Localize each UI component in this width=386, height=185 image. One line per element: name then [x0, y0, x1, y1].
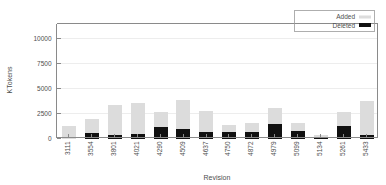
y-tick-label: 2500: [37, 110, 52, 117]
x-tick-label: 3801: [110, 141, 117, 156]
x-tick-label: 4979: [270, 141, 277, 156]
bar-segment-added: [199, 111, 213, 132]
x-tick-label: 5261: [339, 141, 346, 156]
bar-segment-added: [176, 100, 190, 129]
gridlines: [57, 39, 378, 114]
x-tick-label: 4637: [202, 141, 209, 156]
bar-segment-added: [291, 123, 305, 131]
bar-segment-added: [154, 112, 168, 127]
x-axis-title: Revision: [204, 174, 231, 181]
x-tick-label: 5099: [293, 141, 300, 156]
x-tick-label: 4021: [133, 141, 140, 156]
x-tick-label: 3111: [64, 141, 71, 155]
x-tick-label: 5134: [316, 141, 323, 156]
bar-segment-added: [222, 125, 236, 132]
y-tick-label: 10000: [33, 35, 51, 42]
bar-segment-added: [131, 103, 145, 134]
y-tick-label: 0: [48, 135, 52, 142]
legend-swatch-deleted: [359, 23, 371, 27]
bar-segment-added: [85, 119, 99, 133]
legend: Added Deleted: [295, 11, 375, 32]
bar-segment-added: [108, 105, 122, 135]
x-tick-label: 4872: [247, 141, 254, 156]
y-tick-label: 7500: [37, 60, 52, 67]
bar-segment-added: [337, 112, 351, 126]
x-tick-label: 4509: [179, 141, 186, 156]
y-axis-title: KTokens: [6, 66, 13, 93]
bar-segment-added: [360, 101, 374, 135]
x-tick-label: 4750: [224, 141, 231, 156]
bar-chart: 025005000750010000 311135543801402142904…: [0, 0, 386, 185]
bar-segment-added: [245, 123, 259, 132]
x-tick-label: 3554: [87, 141, 94, 156]
x-tick-label: 4290: [156, 141, 163, 156]
legend-swatch-added: [359, 16, 371, 19]
legend-label-deleted: Deleted: [333, 22, 356, 29]
bar-group: [62, 100, 374, 139]
bar-segment-added: [268, 108, 282, 124]
legend-label-added: Added: [336, 13, 355, 20]
axes: [57, 24, 378, 138]
x-tick-label: 5433: [362, 141, 369, 156]
y-tick-label: 5000: [37, 85, 52, 92]
